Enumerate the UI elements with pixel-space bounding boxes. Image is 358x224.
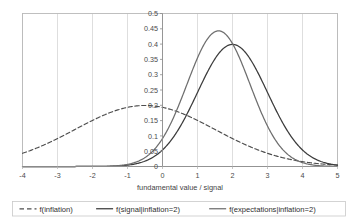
- x-axis-title: fundamental value / signal: [137, 183, 223, 192]
- y-tick-label: 0.15: [144, 116, 158, 125]
- x-tick-label: 1: [196, 171, 200, 180]
- x-tick-label: -1: [124, 171, 130, 180]
- y-tick-label: 0.45: [144, 24, 158, 33]
- y-tick-label: 0.05: [144, 147, 158, 156]
- legend-item-label[interactable]: f(inflation): [40, 205, 74, 214]
- curve-f-signal-given-inflation: [23, 44, 338, 166]
- series-curves: [23, 31, 338, 167]
- y-tick-label: 0: [154, 162, 158, 171]
- x-tick-label: -3: [54, 171, 60, 180]
- axis-lines: [23, 14, 338, 170]
- legend-item-label[interactable]: f(signal|inflation=2): [116, 205, 180, 214]
- x-tick-label: 2: [231, 171, 235, 180]
- y-tick-label: 0.3: [148, 70, 158, 79]
- chart-container: -4-3-2-1012345 00.050.10.150.20.250.30.3…: [0, 0, 358, 224]
- x-axis-title-text: fundamental value / signal: [137, 183, 223, 192]
- y-tick-label: 0.2: [148, 101, 158, 110]
- distribution-line-chart: -4-3-2-1012345 00.050.10.150.20.250.30.3…: [0, 0, 358, 224]
- chart-legend[interactable]: f(inflation)f(signal|inflation=2)f(expec…: [13, 202, 346, 217]
- y-tick-label: 0.5: [148, 9, 158, 18]
- x-tick-label: 0: [161, 171, 165, 180]
- legend-item-label[interactable]: f(expectations|inflation=2): [229, 205, 316, 214]
- plot-frame: [23, 14, 338, 167]
- x-tick-label: -2: [89, 171, 95, 180]
- y-tick-label: 0.1: [148, 132, 158, 141]
- gridlines: [23, 14, 338, 167]
- y-tick-label: 0.25: [144, 86, 158, 95]
- y-axis-tick-labels: 00.050.10.150.20.250.30.350.40.450.5: [144, 9, 158, 171]
- x-tick-label: -4: [19, 171, 25, 180]
- y-tick-label: 0.4: [148, 40, 158, 49]
- x-tick-label: 5: [336, 171, 340, 180]
- x-tick-label: 3: [266, 171, 270, 180]
- x-axis-tick-labels: -4-3-2-1012345: [19, 171, 339, 180]
- y-tick-label: 0.35: [144, 55, 158, 64]
- plot-border: [23, 14, 338, 167]
- curve-f-expectations-given-inflation: [23, 31, 338, 167]
- x-tick-label: 4: [301, 171, 305, 180]
